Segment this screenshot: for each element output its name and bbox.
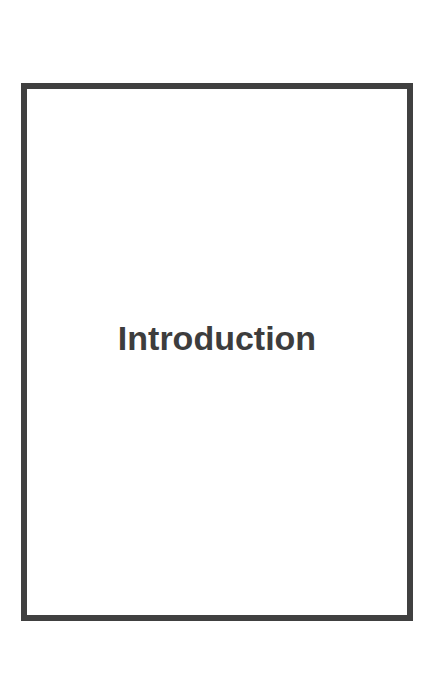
title-page-frame: Introduction <box>21 83 413 621</box>
section-title: Introduction <box>27 319 407 358</box>
